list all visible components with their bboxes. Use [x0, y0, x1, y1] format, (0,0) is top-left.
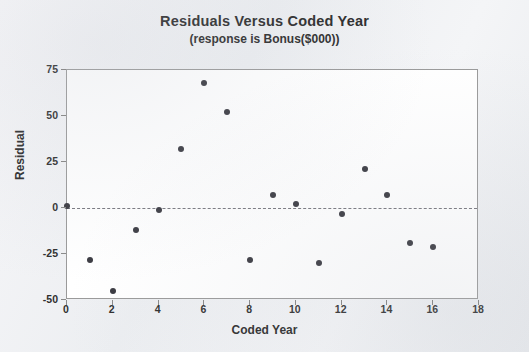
x-tick-mark [386, 300, 387, 305]
plot-area [66, 69, 478, 299]
data-point [293, 201, 299, 207]
data-point [339, 211, 345, 217]
x-tick-mark [203, 300, 204, 305]
x-tick-mark [295, 300, 296, 305]
chart-title: Residuals Versus Coded Year [0, 12, 529, 30]
y-tick-mark [61, 161, 66, 162]
x-tick-mark [66, 300, 67, 305]
data-point [362, 166, 368, 172]
x-tick-mark [341, 300, 342, 305]
data-point [247, 257, 253, 263]
x-tick-mark [432, 300, 433, 305]
y-tick-label: 50 [46, 109, 58, 121]
y-tick-mark [61, 253, 66, 254]
data-point [407, 240, 413, 246]
data-point [270, 192, 276, 198]
y-tick-label: 0 [52, 201, 58, 213]
data-point [156, 207, 162, 213]
y-tick-label: -50 [43, 293, 58, 305]
data-point [110, 288, 116, 294]
x-tick-mark [249, 300, 250, 305]
data-point [224, 109, 230, 115]
y-tick-mark [61, 207, 66, 208]
y-tick-mark [61, 115, 66, 116]
data-point [384, 192, 390, 198]
y-tick-label: -25 [43, 247, 58, 259]
zero-reference-line [67, 208, 477, 209]
x-tick-mark [158, 300, 159, 305]
chart-page: Residuals Versus Coded Year (response is… [0, 0, 529, 352]
y-axis-tick-labels: 7550250-25-50 [24, 69, 58, 299]
data-point [316, 260, 322, 266]
y-tick-label: 75 [46, 63, 58, 75]
x-axis-tick-labels: 024681012141618 [66, 303, 478, 319]
data-point [133, 227, 139, 233]
y-tick-mark [61, 69, 66, 70]
x-axis-title: Coded Year [0, 323, 529, 337]
chart-subtitle: (response is Bonus($000)) [0, 31, 529, 47]
data-point [430, 244, 436, 250]
y-tick-label: 25 [46, 155, 58, 167]
data-point [87, 257, 93, 263]
x-tick-mark [478, 300, 479, 305]
data-point [178, 146, 184, 152]
plot-canvas [67, 70, 477, 298]
data-point [201, 80, 207, 86]
title-block: Residuals Versus Coded Year (response is… [0, 12, 529, 47]
x-tick-mark [112, 300, 113, 305]
